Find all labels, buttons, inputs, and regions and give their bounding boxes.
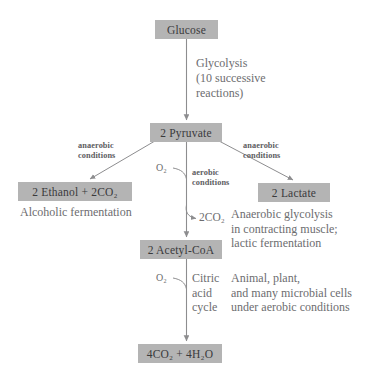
label-co2-release-text: 2CO₂ xyxy=(199,211,225,223)
label-glycolysis: Glycolysis (10 successive reactions) xyxy=(196,56,266,101)
glycolysis-pathway-diagram: Glucose Glycolysis (10 successive reacti… xyxy=(0,0,369,384)
label-glycolysis-line3: reactions) xyxy=(196,86,266,101)
label-anaerobic-right-line1: anaerobic xyxy=(243,141,280,151)
box-ethanol-label: 2 Ethanol + 2CO₂ xyxy=(32,186,118,198)
box-ethanol: 2 Ethanol + 2CO₂ xyxy=(18,182,132,201)
label-aerobic-cells: Animal, plant, and many microbial cells … xyxy=(231,271,352,315)
label-anaerobic-gly-line3: lactic fermentation xyxy=(231,236,338,251)
label-aerobic-line1: aerobic xyxy=(192,168,229,178)
box-acetyl-coa-label: 2 Acetyl-CoA xyxy=(148,244,215,256)
label-aerobic-cells-line3: under aerobic conditions xyxy=(231,300,352,315)
label-anaerobic-left-line1: anaerobic xyxy=(78,141,115,151)
label-oxygen-upper: O₂ xyxy=(156,161,167,175)
label-co2-release: 2CO₂ xyxy=(199,211,225,225)
label-alcoholic-fermentation-text: Alcoholic fermentation xyxy=(20,205,132,219)
label-anaerobic-right-line2: conditions xyxy=(243,151,280,161)
label-glycolysis-line2: (10 successive xyxy=(196,71,266,86)
curve-co2-output xyxy=(186,205,196,219)
label-oxygen-lower: O₂ xyxy=(156,271,167,285)
label-oxygen-lower-text: O₂ xyxy=(156,272,167,283)
box-final-products-label: 4CO₂ + 4H₂O xyxy=(147,348,214,360)
label-anaerobic-glycolysis: Anaerobic glycolysis in contracting musc… xyxy=(231,207,338,251)
label-citric-line1: Citric xyxy=(192,271,219,286)
label-aerobic-cells-line1: Animal, plant, xyxy=(231,271,352,286)
curve-oxygen-input-upper xyxy=(173,168,187,179)
label-anaerobic-conditions-left: anaerobic conditions xyxy=(78,141,115,161)
label-citric-line3: cycle xyxy=(192,300,219,315)
label-oxygen-upper-text: O₂ xyxy=(156,162,167,173)
label-aerobic-line2: conditions xyxy=(192,178,229,188)
box-glucose-label: Glucose xyxy=(167,24,206,36)
label-glycolysis-line1: Glycolysis xyxy=(196,56,266,71)
box-lactate: 2 Lactate xyxy=(258,183,330,202)
label-aerobic-cells-line2: and many microbial cells xyxy=(231,286,352,301)
box-pyruvate-label: 2 Pyruvate xyxy=(160,127,212,139)
box-final-products: 4CO₂ + 4H₂O xyxy=(138,344,222,363)
box-glucose: Glucose xyxy=(155,20,218,39)
label-aerobic-conditions: aerobic conditions xyxy=(192,168,229,188)
label-citric-acid-cycle: Citric acid cycle xyxy=(192,271,219,315)
box-pyruvate: 2 Pyruvate xyxy=(150,123,222,142)
box-acetyl-coa: 2 Acetyl-CoA xyxy=(140,240,222,259)
label-alcoholic-fermentation: Alcoholic fermentation xyxy=(20,206,132,220)
label-citric-line2: acid xyxy=(192,286,219,301)
label-anaerobic-conditions-right: anaerobic conditions xyxy=(243,141,280,161)
curve-oxygen-input-lower xyxy=(173,278,187,289)
label-anaerobic-gly-line1: Anaerobic glycolysis xyxy=(231,207,338,222)
label-anaerobic-left-line2: conditions xyxy=(78,151,115,161)
label-anaerobic-gly-line2: in contracting muscle; xyxy=(231,222,338,237)
box-lactate-label: 2 Lactate xyxy=(272,187,316,199)
